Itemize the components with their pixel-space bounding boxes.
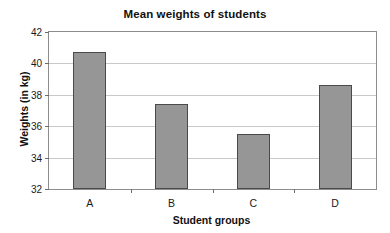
y-tick-mark bbox=[45, 126, 49, 127]
y-tick-label: 32 bbox=[31, 184, 42, 195]
x-tick-label: A bbox=[86, 197, 93, 209]
x-tick-mark bbox=[294, 189, 295, 193]
plot-area: 323436384042 ABCD bbox=[48, 31, 377, 190]
x-tick-mark bbox=[131, 189, 132, 193]
y-tick-label: 36 bbox=[31, 121, 42, 132]
y-tick-label: 40 bbox=[31, 58, 42, 69]
bar bbox=[73, 52, 106, 189]
y-tick-label: 34 bbox=[31, 152, 42, 163]
y-tick-label: 38 bbox=[31, 89, 42, 100]
bar bbox=[319, 85, 352, 189]
x-axis-title: Student groups bbox=[48, 214, 375, 226]
y-tick-mark bbox=[45, 95, 49, 96]
chart-title: Mean weights of students bbox=[0, 8, 390, 20]
x-tick-mark bbox=[213, 189, 214, 193]
x-tick-label: B bbox=[168, 197, 175, 209]
bar bbox=[237, 134, 270, 189]
x-tick-label: D bbox=[331, 197, 339, 209]
y-tick-mark bbox=[45, 32, 49, 33]
bar bbox=[155, 104, 188, 189]
x-tick-label: C bbox=[250, 197, 258, 209]
y-tick-label: 42 bbox=[31, 27, 42, 38]
y-tick-mark bbox=[45, 189, 49, 190]
y-tick-mark bbox=[45, 63, 49, 64]
y-axis-title: Weights (in kg) bbox=[18, 39, 30, 179]
y-tick-mark bbox=[45, 158, 49, 159]
bar-chart: Mean weights of students Weights (in kg)… bbox=[0, 0, 390, 233]
